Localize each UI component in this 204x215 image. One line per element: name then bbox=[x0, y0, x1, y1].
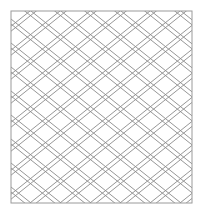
background-rect bbox=[0, 0, 204, 215]
pattern-canvas bbox=[0, 0, 204, 215]
lattice-pattern-figure bbox=[0, 0, 204, 215]
